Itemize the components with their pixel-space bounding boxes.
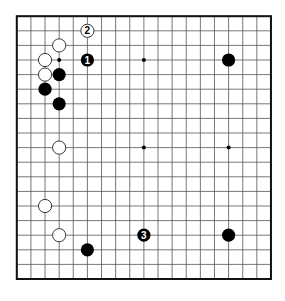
go-board-canvas[interactable]: 213 (0, 0, 285, 301)
black-stone (53, 97, 66, 110)
white-stone (38, 68, 51, 81)
black-stone (53, 68, 66, 81)
white-stone-icon (38, 53, 51, 66)
black-stone (222, 229, 235, 242)
white-stone (53, 141, 66, 154)
star-point-icon (57, 58, 61, 62)
white-stone (38, 53, 51, 66)
white-stone-icon (38, 68, 51, 81)
black-stone (38, 83, 51, 96)
black-stone-icon (222, 229, 235, 242)
move-number-label: 3 (141, 230, 147, 241)
black-stone (81, 243, 94, 256)
white-stone-icon (53, 141, 66, 154)
white-stone (38, 199, 51, 212)
stones-layer: 213 (38, 24, 235, 256)
white-stone-icon (53, 229, 66, 242)
black-stone-icon (38, 83, 51, 96)
go-board[interactable]: 213 (0, 0, 285, 301)
black-stone-icon (53, 97, 66, 110)
star-point-icon (142, 146, 146, 150)
black-stone-move-1: 1 (81, 53, 94, 66)
black-stone-icon (53, 68, 66, 81)
black-stone-icon (222, 53, 235, 66)
star-point-icon (142, 58, 146, 62)
star-point-icon (227, 146, 231, 150)
white-stone-move-2: 2 (81, 24, 94, 37)
black-stone (222, 53, 235, 66)
white-stone (53, 39, 66, 52)
black-stone-icon (81, 243, 94, 256)
move-number-label: 1 (85, 55, 91, 66)
move-number-label: 2 (85, 25, 91, 36)
white-stone-icon (38, 199, 51, 212)
white-stone-icon (53, 39, 66, 52)
white-stone (53, 229, 66, 242)
black-stone-move-3: 3 (137, 229, 150, 242)
